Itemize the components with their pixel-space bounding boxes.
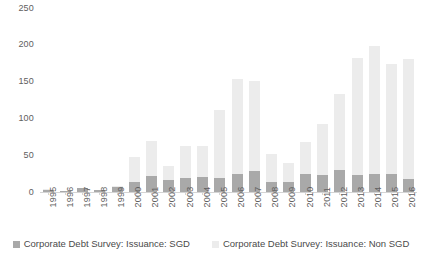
x-axis-labels: 1995199619971998199920002001200220032004… <box>40 195 417 237</box>
bar-column[interactable] <box>126 8 143 192</box>
bar-segment-non-sgd[interactable] <box>403 59 414 179</box>
bar-segment-non-sgd[interactable] <box>386 64 397 174</box>
x-axis-tick: 2000 <box>126 195 143 237</box>
x-axis-tick: 2015 <box>383 195 400 237</box>
legend-item-label: Corporate Debt Survey: Issuance: SGD <box>24 239 190 249</box>
x-axis-tick-label: 2006 <box>237 187 246 208</box>
x-axis-tick-label: 1996 <box>66 187 75 208</box>
x-axis-tick-label: 2007 <box>254 187 263 208</box>
x-axis-tick: 1998 <box>91 195 108 237</box>
bar-column[interactable] <box>57 8 74 192</box>
x-axis-tick: 2011 <box>314 195 331 237</box>
bar-column[interactable] <box>297 8 314 192</box>
bar-column[interactable] <box>109 8 126 192</box>
bar-segment-non-sgd[interactable] <box>129 157 140 183</box>
bar-column[interactable] <box>229 8 246 192</box>
y-axis-tick-label: 100 <box>18 114 34 123</box>
x-axis-tick-label: 2011 <box>323 187 332 207</box>
x-axis-tick-label: 1997 <box>83 187 92 208</box>
x-axis-tick-label: 2015 <box>391 187 400 208</box>
x-axis-tick-label: 2016 <box>408 187 417 208</box>
bar-column[interactable] <box>349 8 366 192</box>
bar-series-group <box>40 8 417 192</box>
bar-column[interactable] <box>160 8 177 192</box>
legend-item[interactable]: Corporate Debt Survey: Issuance: SGD <box>13 239 190 249</box>
bar-column[interactable] <box>331 8 348 192</box>
x-axis-tick-label: 2014 <box>374 187 383 208</box>
x-axis-tick: 2007 <box>246 195 263 237</box>
x-axis-tick: 2005 <box>211 195 228 237</box>
x-axis-tick: 2009 <box>280 195 297 237</box>
bar-column[interactable] <box>400 8 417 192</box>
bar-segment-non-sgd[interactable] <box>197 146 208 177</box>
x-axis-tick: 2002 <box>160 195 177 237</box>
bar-column[interactable] <box>74 8 91 192</box>
x-axis-tick-label: 1998 <box>100 187 109 208</box>
legend-item[interactable]: Corporate Debt Survey: Issuance: Non SGD <box>212 239 409 249</box>
x-axis-tick-label: 2003 <box>186 187 195 208</box>
x-axis-tick-label: 2013 <box>357 187 366 208</box>
x-axis-tick: 2004 <box>194 195 211 237</box>
x-axis-tick-label: 2009 <box>288 187 297 208</box>
x-axis-tick-label: 1995 <box>49 187 58 208</box>
x-axis-tick: 1995 <box>40 195 57 237</box>
x-axis-tick: 1997 <box>74 195 91 237</box>
legend-swatch-icon <box>212 241 219 248</box>
bar-segment-non-sgd[interactable] <box>352 58 363 175</box>
x-axis-tick: 2013 <box>349 195 366 237</box>
bar-segment-non-sgd[interactable] <box>369 46 380 174</box>
bar-segment-non-sgd[interactable] <box>283 163 294 182</box>
x-axis-tick-label: 2012 <box>340 187 349 208</box>
x-axis-tick-label: 2010 <box>306 187 315 208</box>
legend-item-label: Corporate Debt Survey: Issuance: Non SGD <box>223 239 409 249</box>
x-axis-tick: 2012 <box>331 195 348 237</box>
bar-column[interactable] <box>40 8 57 192</box>
bar-column[interactable] <box>383 8 400 192</box>
x-axis-tick-label: 2008 <box>271 187 280 208</box>
y-axis-tick-label: 50 <box>24 151 34 160</box>
bar-segment-non-sgd[interactable] <box>334 94 345 170</box>
bar-segment-non-sgd[interactable] <box>180 146 191 178</box>
x-axis-tick-label: 2004 <box>203 187 212 208</box>
y-axis-labels: 250200150100500 <box>0 0 38 200</box>
bar-column[interactable] <box>280 8 297 192</box>
y-axis-tick-label: 150 <box>18 77 34 86</box>
y-axis-tick-label: 250 <box>18 4 34 13</box>
x-axis-tick: 2010 <box>297 195 314 237</box>
bar-segment-non-sgd[interactable] <box>249 81 260 171</box>
caption-sliver <box>8 258 418 266</box>
x-axis-tick: 2016 <box>400 195 417 237</box>
chart-legend: Corporate Debt Survey: Issuance: SGDCorp… <box>0 236 422 252</box>
chart-container: 250200150100500 199519961997199819992000… <box>0 0 422 266</box>
x-axis-tick-label: 2002 <box>168 187 177 208</box>
x-axis-tick: 1996 <box>57 195 74 237</box>
bar-column[interactable] <box>194 8 211 192</box>
bar-segment-non-sgd[interactable] <box>214 110 225 178</box>
x-axis-tick-label: 2005 <box>220 187 229 208</box>
x-axis-tick: 2008 <box>263 195 280 237</box>
x-axis-tick: 2014 <box>366 195 383 237</box>
x-axis-tick-label: 1999 <box>117 187 126 208</box>
legend-swatch-icon <box>13 241 20 248</box>
bar-segment-non-sgd[interactable] <box>232 79 243 173</box>
bar-segment-non-sgd[interactable] <box>146 141 157 176</box>
bar-column[interactable] <box>211 8 228 192</box>
bar-segment-non-sgd[interactable] <box>163 166 174 179</box>
x-axis-tick: 2003 <box>177 195 194 237</box>
bar-column[interactable] <box>177 8 194 192</box>
x-axis-tick: 1999 <box>109 195 126 237</box>
y-axis-tick-label: 0 <box>29 188 34 197</box>
bar-column[interactable] <box>314 8 331 192</box>
x-axis-tick: 2006 <box>229 195 246 237</box>
x-axis-tick-label: 2001 <box>151 187 160 208</box>
bar-column[interactable] <box>246 8 263 192</box>
bar-segment-non-sgd[interactable] <box>317 124 328 176</box>
bar-column[interactable] <box>366 8 383 192</box>
x-axis-tick-label: 2000 <box>134 187 143 208</box>
x-axis-tick: 2001 <box>143 195 160 237</box>
bar-column[interactable] <box>263 8 280 192</box>
bar-segment-non-sgd[interactable] <box>266 154 277 182</box>
bar-column[interactable] <box>143 8 160 192</box>
bar-segment-non-sgd[interactable] <box>300 142 311 174</box>
bar-column[interactable] <box>91 8 108 192</box>
